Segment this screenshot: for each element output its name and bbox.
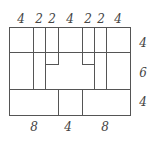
right-label-1: 4 (138, 36, 147, 50)
partition-figure: 4 2 2 4 2 2 4 4 6 4 8 4 8 (0, 0, 154, 141)
bottom-label-1: 8 (30, 120, 38, 134)
bottom-label-2: 4 (63, 120, 72, 134)
right-label-2: 6 (139, 66, 147, 80)
bottom-label-3: 8 (101, 120, 109, 134)
top-label-1: 4 (16, 12, 25, 26)
outer-rectangle (10, 28, 131, 116)
top-label-5: 2 (83, 12, 92, 26)
top-label-2: 2 (34, 12, 43, 26)
top-label-7: 4 (113, 12, 122, 26)
right-label-3: 4 (138, 95, 147, 109)
top-label-6: 2 (96, 12, 105, 26)
top-label-3: 2 (47, 12, 56, 26)
diagram: 4 2 2 4 2 2 4 4 6 4 8 4 8 (0, 0, 154, 141)
top-label-4: 4 (65, 12, 74, 26)
